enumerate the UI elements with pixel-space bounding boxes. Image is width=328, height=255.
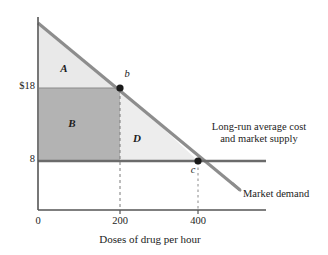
- x-tick-label-0: 0: [24, 215, 52, 227]
- y-tick-label-8: 8: [2, 153, 35, 165]
- point-c-label: c: [186, 164, 200, 176]
- supply-annotation-line-2: and market supply: [220, 133, 298, 144]
- y-tick-label-18: $18: [2, 80, 35, 92]
- point-b-marker: [116, 84, 123, 91]
- x-tick-label-200: 200: [102, 215, 138, 227]
- x-tick-label-400: 400: [180, 215, 216, 227]
- market-demand-annotation: Market demand: [243, 188, 309, 200]
- drug-market-graph-figure: $18 8 0 200 400 Doses of drug per hour A…: [0, 0, 328, 255]
- x-axis-title: Doses of drug per hour: [62, 233, 238, 245]
- supply-annotation-line-1: Long-run average cost: [212, 121, 306, 132]
- point-b-label: b: [120, 68, 134, 80]
- region-b-label: B: [63, 117, 81, 129]
- market-supply-annotation: Long-run average cost and market supply: [199, 121, 319, 145]
- demand-label-leader: [232, 183, 241, 191]
- region-a-label: A: [55, 62, 73, 74]
- region-d-label: D: [128, 132, 146, 144]
